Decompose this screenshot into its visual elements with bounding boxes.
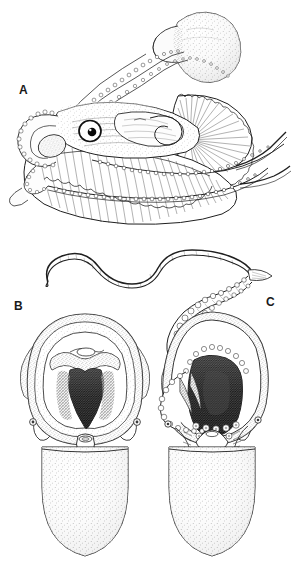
- panel-a-lateral-view: [10, 6, 292, 224]
- figure-plate: [0, 0, 294, 578]
- panel-c-frontal-view-tentacle-extended: [158, 312, 268, 560]
- mantle-c: [167, 445, 259, 560]
- eye: [79, 121, 101, 142]
- panel-label-c: C: [266, 296, 275, 308]
- tentacle-attachment: [248, 270, 272, 281]
- panel-label-a: A: [19, 84, 28, 96]
- arm-tip-lower-left: [10, 188, 29, 206]
- bulbous-prey-mass: [150, 6, 250, 92]
- panel-label-b: B: [14, 300, 23, 312]
- mantle-b: [40, 445, 132, 560]
- panel-b-frontal-view: [20, 314, 149, 560]
